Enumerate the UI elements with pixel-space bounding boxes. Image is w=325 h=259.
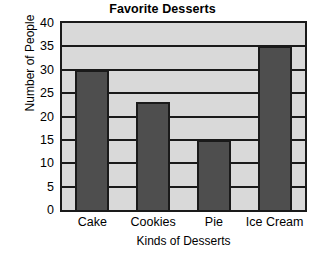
plot-area <box>60 21 307 212</box>
y-tick-label: 35 <box>14 40 54 52</box>
x-axis-label: Kinds of Desserts <box>60 233 307 249</box>
bar <box>75 70 109 210</box>
y-tick-label: 5 <box>14 181 54 193</box>
x-tick-label: Cake <box>62 214 123 230</box>
bar <box>258 46 292 210</box>
x-tick-label: Cookies <box>123 214 184 230</box>
y-tick-label: 25 <box>14 87 54 99</box>
y-tick-label: 0 <box>14 204 54 216</box>
bar <box>197 140 231 210</box>
plot-inner <box>62 23 305 210</box>
y-axis-tick-labels: 0510152025303540 <box>0 0 60 259</box>
bar <box>136 102 170 210</box>
y-tick-label: 15 <box>14 134 54 146</box>
y-tick-label: 20 <box>14 111 54 123</box>
bar-chart: Favorite Desserts Number of People 05101… <box>0 0 325 259</box>
x-tick-label: Ice Cream <box>244 214 305 230</box>
y-tick-label: 30 <box>14 64 54 76</box>
x-axis-tick-labels: CakeCookiesPieIce Cream <box>60 214 307 232</box>
x-tick-label: Pie <box>184 214 245 230</box>
y-tick-label: 40 <box>14 17 54 29</box>
y-tick-label: 10 <box>14 157 54 169</box>
